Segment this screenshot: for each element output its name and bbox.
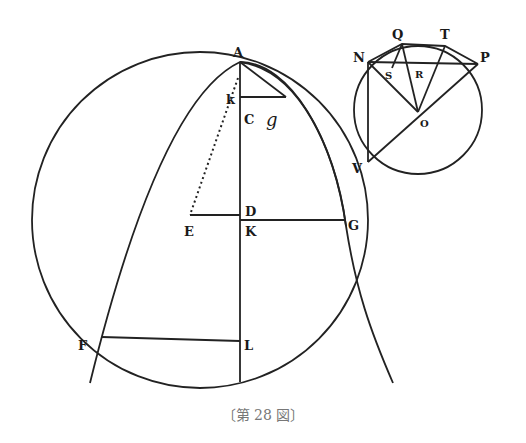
label-T: T xyxy=(440,27,450,42)
label-L: L xyxy=(244,338,253,353)
label-K: K xyxy=(245,224,257,239)
no-line xyxy=(368,62,418,112)
label-G: G xyxy=(348,218,359,233)
geometry-figure: A k C g D E K G F L Q T N P S R O V xyxy=(0,0,526,443)
label-D: D xyxy=(245,204,256,219)
label-g: g xyxy=(266,109,278,130)
label-C: C xyxy=(244,112,254,127)
label-E: E xyxy=(184,224,194,239)
label-R: R xyxy=(415,69,424,80)
label-P: P xyxy=(480,50,490,65)
label-V: V xyxy=(351,161,363,176)
label-O: O xyxy=(420,118,429,129)
label-A: A xyxy=(232,45,244,60)
fl-line xyxy=(102,337,240,341)
label-S: S xyxy=(385,70,392,81)
label-F: F xyxy=(78,338,88,353)
chord-curve xyxy=(240,62,346,226)
label-k: k xyxy=(226,92,236,107)
label-Q: Q xyxy=(392,27,403,42)
label-N: N xyxy=(353,50,365,65)
figure-caption: 〔第 28 図〕 xyxy=(0,404,526,424)
